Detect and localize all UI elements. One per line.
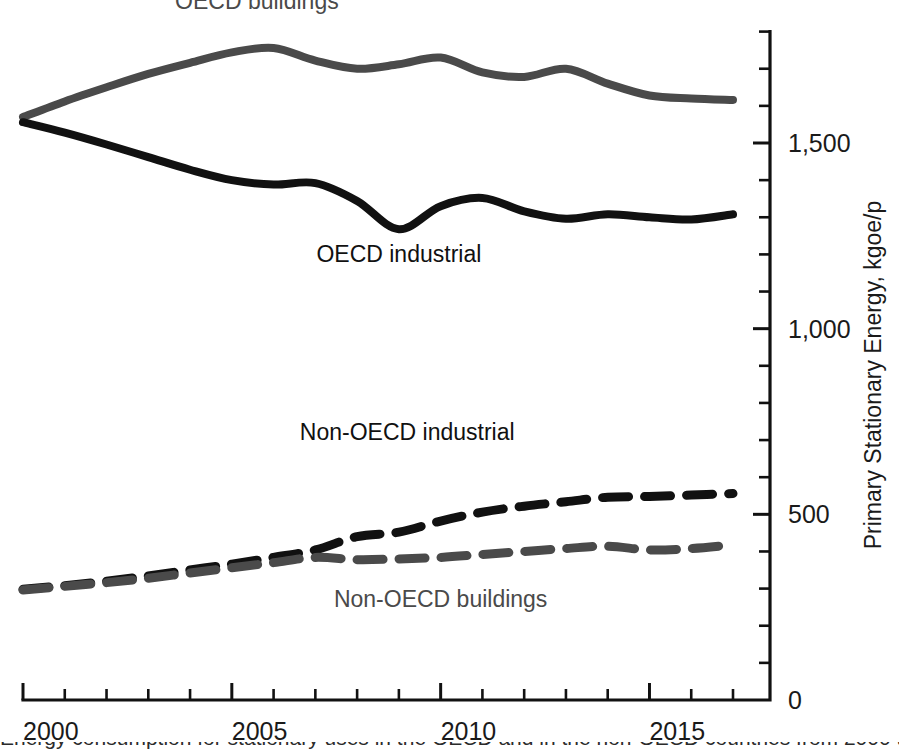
figure-caption-strip: Energy consumption for stationary uses i…	[0, 742, 899, 754]
axis-layer: 200020052010201505001,0001,500	[23, 32, 851, 745]
y-tick-label: 1,000	[788, 315, 851, 343]
series-label-oecd-buildings: OECD buildings	[175, 0, 339, 14]
x-tick-label: 2000	[23, 717, 79, 745]
series-layer	[23, 48, 733, 590]
figure-caption: Energy consumption for stationary uses i…	[0, 742, 899, 750]
series-label-oecd-industrial: OECD industrial	[316, 241, 481, 267]
y-tick-label: 0	[788, 686, 802, 714]
series-line-oecd-buildings	[23, 48, 733, 117]
series-label-non-oecd-industrial: Non-OECD industrial	[300, 419, 515, 445]
series-line-non-oecd-industrial	[23, 494, 733, 590]
y-axis-title: Primary Stationary Energy, kgoe/p	[860, 201, 886, 550]
series-label-layer: OECD buildingsOECD industrialNon-OECD in…	[175, 0, 547, 612]
chart-container: 200020052010201505001,0001,500 OECD buil…	[0, 0, 899, 754]
line-chart: 200020052010201505001,0001,500 OECD buil…	[0, 0, 899, 754]
y-tick-label: 1,500	[788, 129, 851, 157]
y-tick-label: 500	[788, 500, 830, 528]
series-label-non-oecd-buildings: Non-OECD buildings	[334, 586, 547, 612]
x-tick-label: 2005	[232, 717, 288, 745]
series-line-oecd-industrial	[23, 122, 733, 229]
x-tick-label: 2010	[441, 717, 497, 745]
x-tick-label: 2015	[649, 717, 705, 745]
series-line-non-oecd-buildings	[23, 545, 733, 590]
